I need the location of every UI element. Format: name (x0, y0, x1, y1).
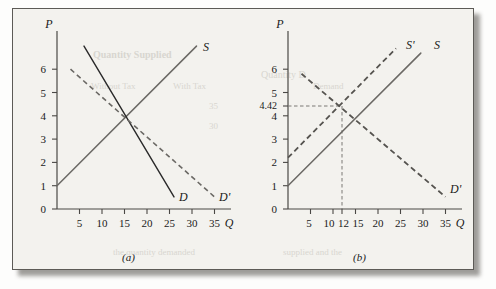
demand-shifted-curve-a (71, 69, 215, 197)
panel-b-plot: 0 1 2 3 4 5 6 4.42 (244, 9, 474, 249)
demand-shifted-curve-label-a: D' (218, 190, 231, 204)
y-ticklabel-a-1: 1 (41, 180, 47, 192)
x-ticklabel-b-15: 15 (353, 217, 365, 229)
panel-a: 0 1 2 3 4 5 6 5 10 15 20 25 30 (13, 9, 244, 270)
equilibrium-price-label-b: 4.42 (260, 100, 278, 111)
supply-curve-b (288, 53, 421, 186)
y-ticklabel-a-3: 3 (41, 133, 47, 145)
y-ticklabel-b-4: 4 (272, 110, 278, 122)
x-axis-title-a: Q (225, 216, 234, 230)
y-ticklabel-b-5: 5 (272, 87, 278, 99)
y-ticklabel-a-6: 6 (41, 63, 47, 75)
demand-shifted-curve-b (302, 74, 446, 197)
x-ticklabel-b-10: 10 (324, 217, 336, 229)
supply-curve-label-b: S (434, 38, 440, 52)
y-ticklabel-b-0: 0 (272, 203, 278, 215)
x-ticklabel-a-5: 5 (77, 217, 83, 229)
x-axis-title-b: Q (456, 216, 465, 230)
x-ticklabel-a-30: 30 (187, 217, 199, 229)
demand-shifted-curve-label-b: D' (449, 182, 462, 196)
x-ticklabel-a-15: 15 (119, 217, 131, 229)
demand-curve-label-a: D (178, 190, 188, 204)
y-ticklabel-a-2: 2 (41, 156, 47, 168)
x-ticklabel-a-25: 25 (164, 217, 176, 229)
panel-b: 0 1 2 3 4 5 6 4.42 (244, 9, 474, 270)
x-ticklabel-a-10: 10 (97, 217, 109, 229)
x-ticklabel-b-12: 12 (338, 217, 349, 229)
y-ticklabel-a-0: 0 (41, 203, 47, 215)
x-ticklabel-a-20: 20 (142, 217, 154, 229)
y-axis-title-b: P (275, 17, 284, 31)
panel-b-caption: (b) (244, 251, 474, 263)
y-axis-title-a: P (44, 17, 53, 31)
figure-root: Quantity Supplied Without Tax With Tax 3… (0, 0, 496, 289)
supply-shifted-curve-label-b: S' (406, 38, 415, 52)
y-ticklabel-b-3: 3 (272, 133, 278, 145)
supply-curve-a (57, 46, 197, 186)
y-ticklabel-b-2: 2 (272, 156, 278, 168)
x-ticklabel-b-25: 25 (395, 217, 407, 229)
x-ticklabel-b-20: 20 (373, 217, 385, 229)
supply-curve-label-a: S (203, 40, 209, 54)
y-ticklabel-b-6: 6 (272, 63, 278, 75)
x-ticklabel-b-30: 30 (418, 217, 430, 229)
x-ticklabel-b-5: 5 (306, 217, 312, 229)
panel-a-caption: (a) (13, 251, 244, 263)
y-ticklabel-a-4: 4 (41, 110, 47, 122)
y-ticklabel-a-5: 5 (41, 87, 47, 99)
panel-a-plot: 0 1 2 3 4 5 6 5 10 15 20 25 30 (13, 9, 244, 249)
figure-plate: Quantity Supplied Without Tax With Tax 3… (12, 8, 474, 270)
y-ticklabel-b-1: 1 (272, 180, 278, 192)
x-ticklabel-a-35: 35 (209, 217, 221, 229)
x-ticklabel-b-35: 35 (440, 217, 452, 229)
